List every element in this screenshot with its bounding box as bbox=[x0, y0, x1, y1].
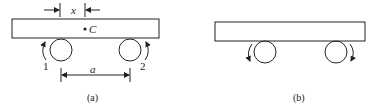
rotation-arrow-2-icon bbox=[145, 42, 148, 60]
rotation-arrow-b-left-icon bbox=[248, 44, 252, 61]
diagram-canvas: x C 1 2 a (a) (b) bbox=[0, 0, 377, 112]
center-of-mass-dot bbox=[83, 27, 86, 30]
roller-1 bbox=[50, 39, 72, 61]
center-label: C bbox=[89, 23, 97, 35]
roller-1-label: 1 bbox=[43, 60, 49, 72]
dim-a-label: a bbox=[90, 63, 96, 75]
caption-a: (a) bbox=[87, 92, 98, 104]
dimension-a: a bbox=[61, 63, 130, 82]
roller-b-left bbox=[254, 41, 276, 63]
roller-2 bbox=[119, 39, 141, 61]
caption-b: (b) bbox=[293, 92, 305, 104]
dim-x-label: x bbox=[70, 4, 76, 16]
dimension-x: x bbox=[44, 3, 100, 17]
roller-b-right bbox=[325, 41, 347, 63]
rotation-arrow-b-right-icon bbox=[350, 44, 353, 61]
figure-b: (b) bbox=[215, 22, 365, 104]
rotation-arrow-1-icon bbox=[43, 42, 46, 60]
beam-b bbox=[215, 22, 365, 41]
roller-2-label: 2 bbox=[140, 60, 146, 72]
figure-a: x C 1 2 a (a) bbox=[12, 3, 159, 104]
